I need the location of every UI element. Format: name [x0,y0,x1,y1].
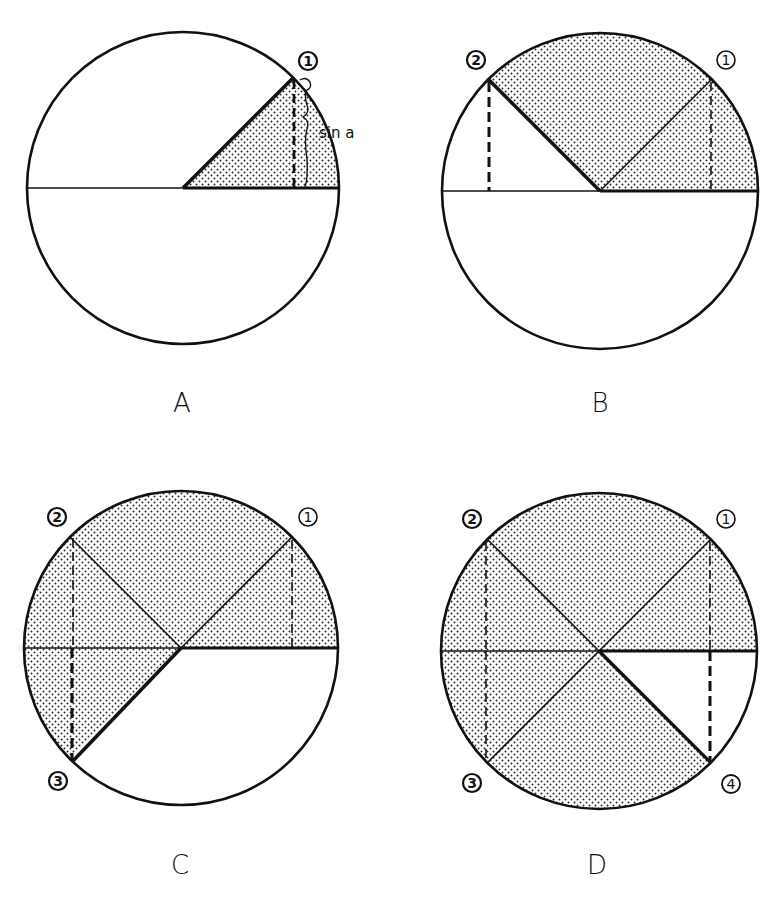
point-1-label: 1 [722,511,731,527]
point-1-label: 1 [304,509,313,525]
panel-a: sin a 1 A [27,32,354,418]
panel-b: 2 1 B [442,33,758,418]
sin-a-annotation: sin a [319,124,354,142]
point-2-label: 2 [471,52,481,68]
point-2-label: 2 [52,509,62,525]
point-3-label: 3 [53,773,63,789]
point-1-label: 1 [722,52,731,68]
point-2-label: 2 [467,511,477,527]
point-3-label: 3 [467,775,477,791]
panel-d: 2 1 3 4 D [441,493,757,880]
panel-label-c: C [171,850,189,880]
shaded-sector [24,491,338,759]
panel-label-a: A [173,388,191,418]
point-1-label: 1 [303,53,313,69]
panel-label-d: D [587,850,607,880]
point-4-label: 4 [727,776,736,792]
unit-circle-figure: sin a 1 A 2 1 B 2 1 3 C [0,0,779,904]
panel-c: 2 1 3 C [24,491,338,880]
shaded-sector [183,78,339,188]
panel-label-b: B [591,388,608,418]
